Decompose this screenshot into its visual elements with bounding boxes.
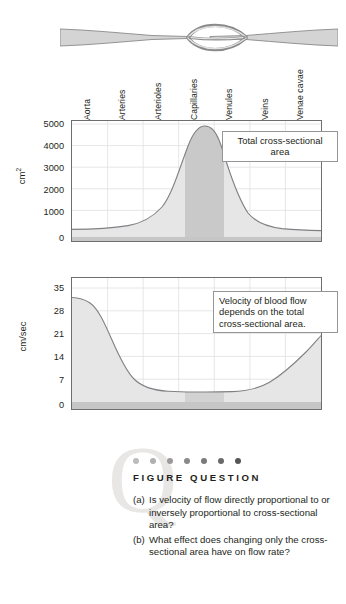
callout-total-cross-sectional-area: Total cross-sectional area [222,131,338,162]
fq-dot-5 [201,458,207,464]
ytick-4000: 4000 [20,141,64,151]
figure-question-dots [133,458,241,464]
fq-dot-3 [167,458,173,464]
vessel-right-trunk [210,29,338,46]
stage-label-arteries: Arteries [117,90,127,120]
stage-label-arterioles: Arterioles [153,83,163,120]
stage-label-capillaries: Capillaries [189,79,199,120]
ytick-28: 28 [20,306,64,316]
stage-label-venules: Venules [224,89,234,120]
ytick-35: 35 [20,283,64,293]
ytick-0: 0 [20,233,64,243]
fq-dot-7 [235,458,241,464]
y-axis-title-area: cm2 [15,148,27,204]
figure-question-items: (a) Is velocity of flow directly proport… [133,494,333,561]
blood-vessel-diagram [60,14,338,60]
fq-dot-6 [218,458,224,464]
ytick-2000: 2000 [20,185,64,195]
figure-question-text-b: What effect does changing only the cross… [149,534,327,558]
figure-question-heading: FIGURE QUESTION [133,472,261,483]
stage-label-aorta: Aorta [82,99,92,120]
stage-label-venae-cavae: Venae cavae [295,69,305,120]
figure-question-item-b: (b) What effect does changing only the c… [133,534,333,559]
velocity-baseline-strip [72,402,321,409]
ytick-0: 0 [20,400,64,410]
figure-question-text-a: Is velocity of flow directly proportiona… [149,494,330,530]
vessel-stage-labels: Aorta Arteries Arterioles Capillaries Ve… [71,62,322,120]
vessel-left-trunk [60,29,188,46]
figure-question-section: Q FIGURE QUESTION (a) Is velocity of flo… [0,432,346,604]
callout-velocity-of-blood-flow: Velocity of blood flow depends on the to… [213,291,338,333]
ytick-5000: 5000 [20,119,64,129]
ytick-3000: 3000 [20,163,64,173]
ytick-1000: 1000 [20,207,64,217]
ytick-21: 21 [20,329,64,339]
area-baseline-strip [72,237,321,241]
vessel-svg [60,14,338,60]
fq-dot-2 [150,458,156,464]
fq-dot-4 [184,458,190,464]
fq-dot-1 [133,458,139,464]
figure-question-marker-a: (a) [133,494,145,507]
ytick-14: 14 [20,352,64,362]
figure-question-item-a: (a) Is velocity of flow directly proport… [133,494,333,532]
stage-label-veins: Veins [260,98,270,120]
figure-question-marker-b: (b) [133,534,145,547]
ytick-7: 7 [20,375,64,385]
